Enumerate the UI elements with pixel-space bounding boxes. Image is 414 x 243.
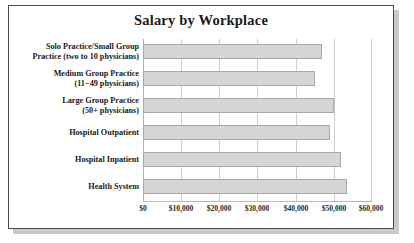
gridline-0 (143, 39, 144, 201)
x-axis-tick-labels: $0 $10,000 $20,000 $30,000 $40,000 $50,0… (143, 204, 372, 220)
category-label-line: Large Group Practice (15, 96, 139, 106)
x-tick-label-0: $0 (139, 204, 147, 213)
category-label-large-group: Large Group Practice (50+ physicians) (15, 96, 139, 116)
x-tick-label-30000: $30,000 (245, 204, 270, 213)
plot-area (143, 39, 372, 201)
bar-hospital-inpatient (143, 152, 341, 167)
bar-hospital-outpatient (143, 125, 330, 140)
gridline-20000 (219, 39, 220, 201)
gridline-30000 (257, 39, 258, 201)
category-label-line: Solo Practice/Small Group (15, 42, 139, 52)
category-label-health-system: Health System (15, 182, 139, 192)
category-label-line: Hospital Outpatient (15, 128, 139, 138)
category-label-hospital-inpatient: Hospital Inpatient (15, 155, 139, 165)
category-label-solo-practice: Solo Practice/Small Group Practice (two … (15, 42, 139, 62)
gridline-50000 (334, 39, 335, 201)
bar-health-system (143, 179, 347, 194)
category-axis-labels: Solo Practice/Small Group Practice (two … (13, 39, 139, 201)
x-tick-label-10000: $10,000 (169, 204, 194, 213)
x-tick-label-50000: $50,000 (322, 204, 347, 213)
chart-title: Salary by Workplace (9, 12, 393, 29)
x-tick-label-20000: $20,000 (207, 204, 232, 213)
bar-solo-practice-small-group (143, 44, 322, 59)
gridline-40000 (296, 39, 297, 201)
gridline-10000 (181, 39, 182, 201)
bar-large-group-practice (143, 98, 334, 113)
category-label-line: (11−49 physicians) (15, 79, 139, 89)
category-label-line: (50+ physicians) (15, 106, 139, 116)
chart-panel: Salary by Workplace Solo (8, 5, 394, 229)
x-tick-label-40000: $40,000 (284, 204, 309, 213)
category-label-line: Hospital Inpatient (15, 155, 139, 165)
category-label-line: Health System (15, 182, 139, 192)
category-label-hospital-outpatient: Hospital Outpatient (15, 128, 139, 138)
gridline-60000 (371, 39, 372, 201)
category-label-medium-group: Medium Group Practice (11−49 physicians) (15, 69, 139, 89)
x-axis-baseline (143, 201, 372, 202)
x-tick-label-60000: $60,000 (359, 204, 384, 213)
category-label-line: Practice (two to 10 physicians) (15, 52, 139, 62)
category-label-line: Medium Group Practice (15, 69, 139, 79)
bar-medium-group-practice (143, 71, 315, 86)
